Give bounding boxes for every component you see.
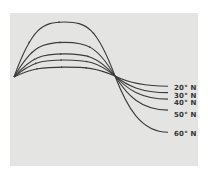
curve-marker — [58, 21, 60, 23]
curve-marker — [35, 63, 37, 65]
label-50n: 50° N — [174, 111, 197, 119]
curve-marker — [36, 68, 38, 70]
curve-marker — [85, 67, 87, 69]
label-40n: 40° N — [174, 99, 197, 107]
curve-marker — [93, 32, 95, 34]
curve-marker — [34, 58, 36, 60]
curve-marker — [28, 42, 30, 44]
curve-20n — [14, 67, 168, 86]
curve-marker — [86, 61, 88, 63]
curve-marker — [59, 42, 61, 44]
label-60n: 60° N — [174, 130, 197, 138]
curve-60n — [14, 22, 168, 132]
curve-marker — [60, 53, 62, 55]
label-20n: 20° N — [174, 84, 197, 92]
curve-marker — [89, 46, 91, 48]
curve-marker — [61, 66, 63, 68]
curve-30n — [14, 60, 168, 93]
curve-marker — [31, 52, 33, 54]
curve-marker — [60, 59, 62, 61]
curve-40n — [14, 54, 168, 99]
curve-50n — [14, 42, 168, 110]
curve-marker — [87, 56, 89, 58]
